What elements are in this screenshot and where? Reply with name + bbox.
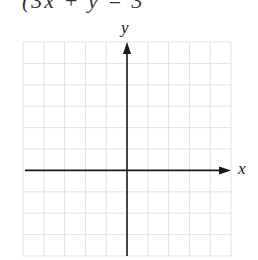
x-axis-arrow-icon [219,166,231,174]
coordinate-grid [0,0,258,260]
x-axis-label: x [238,159,246,179]
y-axis-label: y [121,18,129,38]
y-axis-arrow-icon [123,42,131,54]
